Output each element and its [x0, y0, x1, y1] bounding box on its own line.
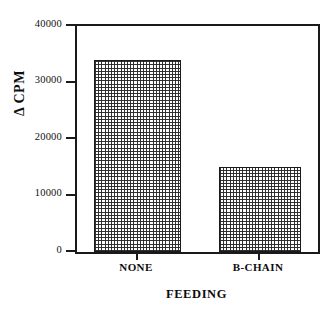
bar-none	[94, 60, 181, 252]
bar-chart-figure: Δ CPM 40000 30000 20000 10000 0 NONE B-C…	[0, 0, 332, 314]
y-axis-tick-label-20000: 20000	[2, 132, 62, 143]
x-axis-title: FEEDING	[75, 287, 318, 302]
x-axis-tick-b-chain	[258, 252, 260, 260]
bar-b-chain	[219, 167, 301, 252]
y-axis-tick-label-40000: 40000	[2, 19, 62, 30]
x-axis-tick-label-none: NONE	[96, 261, 176, 273]
y-axis-tick-label-0: 0	[2, 245, 62, 256]
y-axis-tick-10000	[66, 194, 75, 196]
y-axis-title: Δ CPM	[12, 92, 28, 116]
y-axis-tick-30000	[66, 81, 75, 83]
x-axis-tick-label-b-chain: B-CHAIN	[213, 261, 303, 273]
y-axis-tick-label-10000: 10000	[2, 188, 62, 199]
y-axis-tick-40000	[66, 24, 75, 26]
plot-area	[75, 24, 320, 254]
y-axis-tick-label-30000: 30000	[2, 75, 62, 86]
y-axis-tick-0	[66, 250, 75, 252]
y-axis-tick-20000	[66, 137, 75, 139]
x-axis-tick-none	[136, 252, 138, 260]
